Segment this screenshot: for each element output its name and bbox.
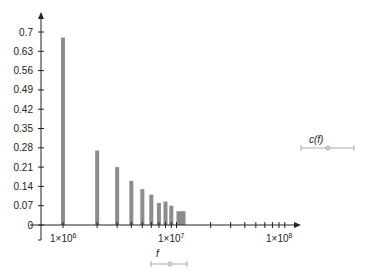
frequency-bar-chart: 00.070.140.210.280.350.420.490.560.630.7… — [0, 0, 368, 280]
bar — [129, 181, 133, 225]
f-slider-label: f — [156, 248, 160, 259]
y-tick-label: 0.21 — [14, 162, 34, 173]
cf-slider-handle[interactable] — [326, 146, 330, 150]
bar — [95, 151, 99, 225]
cf-slider-label: c(f) — [309, 134, 323, 145]
bar — [164, 202, 168, 225]
cf-slider[interactable]: c(f) — [301, 134, 354, 151]
y-tick-label: 0.56 — [14, 65, 34, 76]
f-slider-handle[interactable] — [168, 262, 172, 266]
y-tick-label: 0.07 — [14, 200, 34, 211]
xtick-label-1e7: 1×107 — [158, 232, 185, 244]
f-slider[interactable]: f — [151, 248, 187, 267]
bar — [177, 211, 186, 225]
bar — [149, 195, 153, 225]
bar — [115, 167, 119, 225]
y-axis-ticks: 00.070.140.210.280.350.420.490.560.630.7 — [14, 27, 44, 231]
y-tick-label: 0.49 — [14, 84, 34, 95]
y-tick-label: 0.63 — [14, 46, 34, 57]
bar — [61, 38, 65, 225]
y-tick-label: 0.42 — [14, 104, 34, 115]
y-axis-arrow-icon — [38, 12, 44, 19]
y-tick-label: 0.14 — [14, 181, 34, 192]
bar — [140, 189, 144, 225]
y-tick-label: 0.28 — [14, 142, 34, 153]
y-tick-label: 0.35 — [14, 123, 34, 134]
xtick-label-1e6: 1×106 — [50, 232, 77, 244]
xtick-label-1e8: 1×108 — [266, 232, 293, 244]
bars — [61, 38, 186, 225]
y-tick-label: 0.7 — [19, 27, 33, 38]
x-axis-arrow-icon — [294, 222, 301, 228]
bar — [157, 203, 161, 225]
